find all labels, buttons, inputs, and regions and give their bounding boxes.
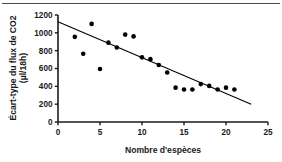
data-point bbox=[131, 34, 136, 39]
y-tick-label: 400 bbox=[39, 82, 53, 91]
figure-container: 020040060080010001200 0510152025 Nombre … bbox=[0, 0, 282, 162]
x-tick-label: 25 bbox=[263, 128, 273, 137]
data-point bbox=[190, 87, 195, 92]
data-point bbox=[207, 84, 212, 89]
y-tick-label: 800 bbox=[39, 47, 53, 56]
y-tick-label: 1200 bbox=[34, 11, 53, 20]
x-tick-label: 15 bbox=[179, 128, 189, 137]
data-point bbox=[81, 51, 86, 56]
data-point bbox=[165, 70, 170, 75]
y-axis-title-line2: (µl/18h) bbox=[18, 53, 28, 83]
x-axis-title: Nombre d'espèces bbox=[125, 145, 201, 155]
y-axis-title-line1: Écart-type du flux de CO2 bbox=[8, 15, 18, 120]
data-point-group bbox=[73, 22, 237, 92]
data-point bbox=[106, 40, 111, 45]
data-point bbox=[140, 55, 145, 60]
data-point bbox=[199, 82, 204, 87]
data-point bbox=[115, 45, 120, 50]
data-point bbox=[73, 35, 78, 40]
x-axis-tick-labels: 0510152025 bbox=[56, 128, 273, 137]
data-point bbox=[215, 87, 220, 92]
data-point bbox=[123, 32, 128, 37]
data-point bbox=[182, 87, 187, 92]
x-tick-label: 5 bbox=[98, 128, 103, 137]
trend-line bbox=[58, 22, 251, 104]
data-point bbox=[148, 57, 153, 62]
y-axis-tick-labels: 020040060080010001200 bbox=[34, 11, 53, 127]
data-point bbox=[98, 67, 103, 72]
x-tick-label: 0 bbox=[56, 128, 61, 137]
x-tick-label: 10 bbox=[137, 128, 147, 137]
y-tick-label: 600 bbox=[39, 64, 53, 73]
x-tick-label: 20 bbox=[221, 128, 231, 137]
y-tick-label: 0 bbox=[48, 118, 53, 127]
data-point bbox=[89, 22, 94, 27]
y-tick-label: 200 bbox=[39, 100, 53, 109]
data-point bbox=[173, 85, 178, 90]
data-point bbox=[224, 85, 229, 90]
scatter-chart: 020040060080010001200 0510152025 Nombre … bbox=[0, 0, 282, 162]
y-tick-label: 1000 bbox=[34, 29, 53, 38]
data-point bbox=[157, 63, 162, 68]
data-point bbox=[232, 87, 237, 92]
